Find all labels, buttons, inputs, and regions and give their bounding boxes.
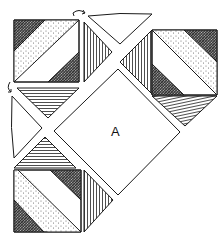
quilt-assembly-diagram: A [0,0,224,243]
rotate-arrow-left-icon [8,82,11,92]
rotate-arrow-top-icon [73,10,85,16]
center-label: A [111,124,120,139]
top-right-square [152,30,217,95]
top-left-square [14,20,79,82]
bottom-left-square [14,170,81,232]
